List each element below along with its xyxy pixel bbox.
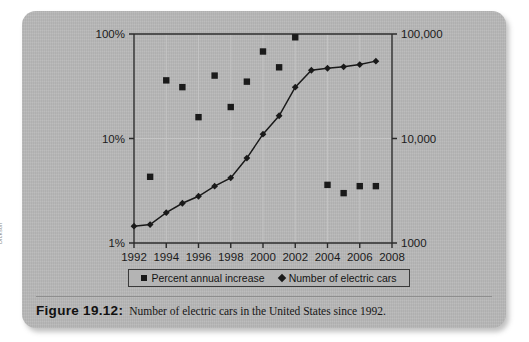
chart-svg: 100%100,00010%10,0001%100019921994199619… xyxy=(22,11,506,273)
legend-item-electric-cars: Number of electric cars xyxy=(279,272,397,284)
svg-text:2004: 2004 xyxy=(315,251,341,263)
legend-label-percent-increase: Percent annual increase xyxy=(151,272,264,284)
svg-text:2008: 2008 xyxy=(379,251,405,263)
svg-text:100%: 100% xyxy=(96,28,125,40)
svg-text:1992: 1992 xyxy=(121,251,147,263)
square-marker-icon xyxy=(141,275,147,281)
chart-plot-area: 100%100,00010%10,0001%100019921994199619… xyxy=(22,11,506,273)
svg-text:2006: 2006 xyxy=(347,251,373,263)
legend-item-percent-increase: Percent annual increase xyxy=(141,272,264,284)
image-credit: Dickson xyxy=(0,222,3,244)
svg-text:1994: 1994 xyxy=(153,251,179,263)
diamond-marker-icon xyxy=(277,274,285,282)
svg-text:2000: 2000 xyxy=(250,251,276,263)
figure-caption: Figure 19.12: Number of electric cars in… xyxy=(36,303,496,318)
chart-legend: Percent annual increase Number of electr… xyxy=(128,269,410,287)
svg-text:2002: 2002 xyxy=(282,251,308,263)
axis-tick-labels: 100%100,00010%10,0001%100019921994199619… xyxy=(96,28,443,263)
svg-text:10%: 10% xyxy=(102,133,125,145)
caption-description: Number of electric cars in the United St… xyxy=(129,305,386,317)
svg-text:1996: 1996 xyxy=(186,251,212,263)
svg-text:100,000: 100,000 xyxy=(401,28,443,40)
svg-text:1000: 1000 xyxy=(401,237,427,249)
caption-figure-number: Figure 19.12: xyxy=(36,303,123,318)
series-line-electric-cars xyxy=(134,61,376,226)
figure-panel: 100%100,00010%10,0001%100019921994199619… xyxy=(22,11,506,328)
svg-text:1998: 1998 xyxy=(218,251,244,263)
legend-label-electric-cars: Number of electric cars xyxy=(289,272,397,284)
svg-text:1%: 1% xyxy=(108,237,125,249)
svg-text:10,000: 10,000 xyxy=(401,133,436,145)
caption-divider xyxy=(36,296,492,297)
